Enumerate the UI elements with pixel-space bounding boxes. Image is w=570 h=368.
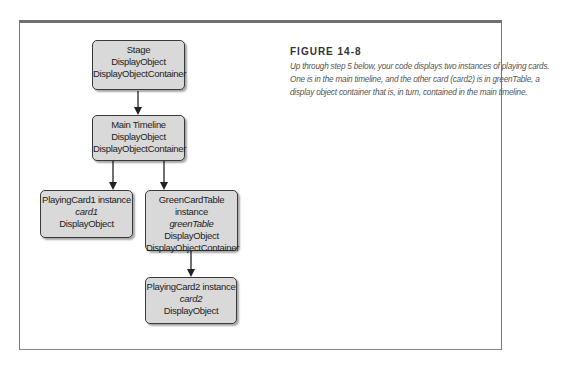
figure-label: FIGURE 14-8 <box>290 46 362 57</box>
figure-caption-line1: Up through step 5 below, your code displ… <box>290 60 500 73</box>
node-stage: Stage DisplayObject DisplayObjectContain… <box>92 40 185 90</box>
figure-caption: Up through step 5 below, your code displ… <box>290 60 500 99</box>
node-main-timeline: Main Timeline DisplayObject DisplayObjec… <box>92 115 185 161</box>
node-green-card-table-instance: greenTable <box>146 218 237 230</box>
node-playing-card1-instance: card1 <box>41 206 132 218</box>
node-playing-card2: PlayingCard2 instance card2 DisplayObjec… <box>145 277 237 324</box>
node-green-card-table: GreenCardTable instance greenTable Displ… <box>145 190 238 251</box>
node-green-card-table-type2: DisplayObjectContainer <box>146 242 237 254</box>
node-playing-card1-type: DisplayObject <box>41 218 132 230</box>
figure-caption-line2: One is in the main timeline, and the oth… <box>290 73 500 86</box>
node-stage-line3: DisplayObjectContainer <box>93 68 184 80</box>
node-playing-card1: PlayingCard1 instance card1 DisplayObjec… <box>40 190 133 238</box>
figure-caption-line3: display object container that is, in tur… <box>290 86 500 99</box>
node-main-timeline-line1: Main Timeline <box>93 119 184 131</box>
node-green-card-table-title: GreenCardTable instance <box>146 194 237 218</box>
node-green-card-table-type1: DisplayObject <box>146 230 237 242</box>
node-playing-card1-title: PlayingCard1 instance <box>41 194 132 206</box>
node-playing-card2-instance: card2 <box>146 293 236 305</box>
node-main-timeline-line3: DisplayObjectContainer <box>93 143 184 155</box>
node-playing-card2-title: PlayingCard2 instance <box>146 281 236 293</box>
node-main-timeline-line2: DisplayObject <box>93 131 184 143</box>
node-stage-line1: Stage <box>93 44 184 56</box>
node-playing-card2-type: DisplayObject <box>146 305 236 317</box>
diagram-arrows <box>0 0 570 368</box>
node-stage-line2: DisplayObject <box>93 56 184 68</box>
